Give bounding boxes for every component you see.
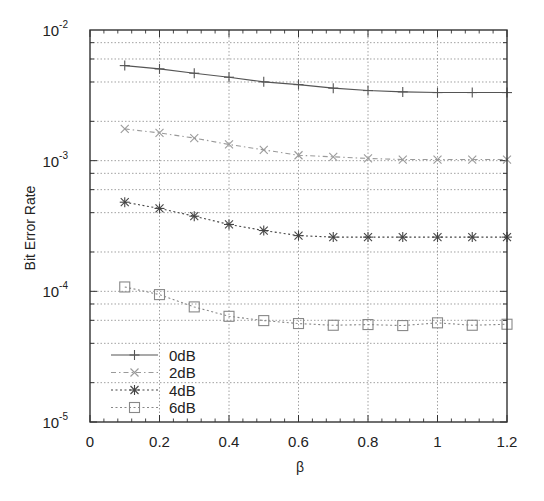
y-tick-label: 10-2	[42, 19, 68, 39]
x-tick-label: 0.8	[358, 433, 379, 450]
legend: 0dB2dB4dB6dB	[111, 347, 196, 417]
x-tick-label: 0.2	[149, 433, 170, 450]
plus-marker-icon	[467, 88, 477, 98]
legend-label: 6dB	[169, 399, 196, 416]
plus-marker-icon	[120, 61, 130, 71]
star-marker-icon	[224, 219, 234, 229]
plus-marker-icon	[398, 87, 408, 97]
star-marker-icon	[155, 203, 165, 213]
series-0dB	[120, 61, 512, 98]
x-tick-labels: 00.20.40.60.811.2	[86, 433, 518, 450]
y-tick-label: 10-4	[42, 280, 68, 300]
x-tick-label: 1	[433, 433, 441, 450]
series-2dB	[121, 125, 511, 164]
legend-item-2dB: 2dB	[111, 364, 196, 381]
star-marker-icon	[467, 232, 477, 242]
x-tick-label: 0.6	[288, 433, 309, 450]
plus-marker-icon	[363, 86, 373, 96]
plus-marker-icon	[294, 80, 304, 90]
legend-label: 2dB	[169, 364, 196, 381]
y-tick-labels: 10-210-310-410-5	[42, 19, 68, 431]
legend-item-4dB: 4dB	[111, 382, 196, 399]
plus-marker-icon	[433, 88, 443, 98]
star-marker-icon	[259, 226, 269, 236]
plus-marker-icon	[189, 68, 199, 78]
legend-label: 4dB	[169, 382, 196, 399]
series-4dB	[120, 197, 512, 242]
series-6dB	[120, 282, 512, 331]
star-marker-icon	[130, 385, 140, 395]
ber-chart: 00.20.40.60.811.2 10-210-310-410-5 β Bit…	[0, 0, 544, 501]
star-marker-icon	[120, 197, 130, 207]
x-tick-label: 0	[86, 433, 94, 450]
x-tick-label: 1.2	[497, 433, 518, 450]
plot-series	[120, 61, 512, 331]
x-axis-title: β	[296, 459, 304, 475]
star-marker-icon	[398, 232, 408, 242]
plus-marker-icon	[259, 77, 269, 87]
star-marker-icon	[189, 211, 199, 221]
legend-item-6dB: 6dB	[111, 399, 196, 416]
star-marker-icon	[433, 232, 443, 242]
square-marker-icon	[155, 290, 165, 300]
plus-marker-icon	[130, 350, 140, 360]
plus-marker-icon	[224, 72, 234, 82]
star-marker-icon	[328, 232, 338, 242]
star-marker-icon	[363, 232, 373, 242]
y-tick-label: 10-5	[42, 411, 68, 431]
legend-label: 0dB	[169, 347, 196, 364]
plus-marker-icon	[328, 83, 338, 93]
y-axis-title: Bit Error Rate	[22, 185, 38, 270]
cross-marker-icon	[364, 154, 372, 162]
star-marker-icon	[294, 231, 304, 241]
plus-marker-icon	[155, 64, 165, 74]
legend-item-0dB: 0dB	[111, 347, 196, 364]
y-tick-label: 10-3	[42, 150, 68, 170]
x-tick-label: 0.4	[219, 433, 240, 450]
